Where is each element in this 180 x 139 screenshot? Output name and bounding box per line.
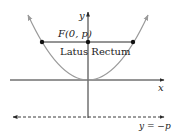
latus-rectum-left-point xyxy=(40,40,44,44)
latus-rectum-label: Latus Rectum xyxy=(60,46,131,57)
parabola-diagram: y F(0, p) Latus Rectum x y = −p xyxy=(0,0,180,139)
latus-rectum-right-point xyxy=(131,40,135,44)
y-axis-label: y xyxy=(78,10,85,21)
x-axis-label: x xyxy=(158,82,164,93)
focus-label: F(0, p) xyxy=(57,28,92,39)
directrix-label: y = −p xyxy=(138,121,171,131)
focus-point xyxy=(86,40,90,44)
